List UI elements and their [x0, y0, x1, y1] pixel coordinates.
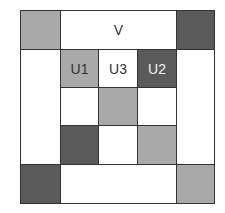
label-u3: U3	[109, 61, 127, 77]
top-band-v: V	[60, 10, 177, 50]
cell-r2c3	[137, 87, 177, 126]
left-band	[20, 49, 61, 165]
right-band	[176, 49, 215, 165]
corner-bottom-right	[176, 164, 215, 204]
cell-r3c1	[60, 125, 99, 165]
corner-top-right	[176, 10, 215, 50]
cell-u2: U2	[137, 49, 177, 88]
bottom-band	[60, 164, 177, 204]
cell-r2c2	[98, 87, 138, 126]
cell-r3c2	[98, 125, 138, 165]
corner-bottom-left	[20, 164, 61, 204]
cell-u1: U1	[60, 49, 99, 88]
cell-r3c3	[137, 125, 177, 165]
label-u2: U2	[148, 61, 166, 77]
label-v: V	[114, 22, 123, 38]
cell-u3: U3	[98, 49, 138, 88]
label-u1: U1	[71, 61, 89, 77]
corner-top-left	[20, 10, 61, 50]
cell-r2c1	[60, 87, 99, 126]
